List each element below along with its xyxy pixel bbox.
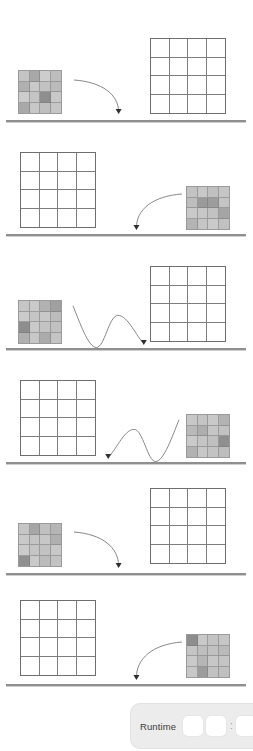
grid-cell[interactable] xyxy=(207,323,226,342)
grid-cell[interactable] xyxy=(208,208,219,219)
grid-cell[interactable] xyxy=(170,323,189,342)
grid-cell[interactable] xyxy=(198,447,209,458)
grid-cell[interactable] xyxy=(187,447,198,458)
grid-cell[interactable] xyxy=(208,436,219,447)
grid-cell[interactable] xyxy=(21,381,40,400)
grid-cell[interactable] xyxy=(30,301,41,312)
grid-cell[interactable] xyxy=(187,415,198,426)
grid-cell[interactable] xyxy=(77,153,96,172)
grid-cell[interactable] xyxy=(187,436,198,447)
grid-cell[interactable] xyxy=(170,508,189,527)
grid-cell[interactable] xyxy=(58,400,77,419)
grid-cell[interactable] xyxy=(219,208,230,219)
grid-cell[interactable] xyxy=(151,508,170,527)
grid-cell[interactable] xyxy=(40,153,59,172)
grid-cell[interactable] xyxy=(198,426,209,437)
grid-cell[interactable] xyxy=(198,198,209,209)
grid-cell[interactable] xyxy=(219,426,230,437)
grid-cell[interactable] xyxy=(219,635,230,646)
grid-cell[interactable] xyxy=(58,209,77,228)
grid-cell[interactable] xyxy=(77,638,96,657)
grid-cell[interactable] xyxy=(187,635,198,646)
grid-cell[interactable] xyxy=(19,301,30,312)
grid-cell[interactable] xyxy=(219,415,230,426)
grid-cell[interactable] xyxy=(207,267,226,286)
grid-cell[interactable] xyxy=(151,304,170,323)
grid-cell[interactable] xyxy=(19,535,30,546)
grid-cell[interactable] xyxy=(58,190,77,209)
grid-cell[interactable] xyxy=(170,58,189,77)
grid-cell[interactable] xyxy=(77,657,96,676)
target-grid-row-1[interactable] xyxy=(150,38,226,114)
grid-cell[interactable] xyxy=(40,556,51,567)
grid-cell[interactable] xyxy=(58,381,77,400)
runtime-digit-box-2[interactable] xyxy=(206,716,226,736)
grid-cell[interactable] xyxy=(208,646,219,657)
grid-cell[interactable] xyxy=(187,656,198,667)
grid-cell[interactable] xyxy=(170,76,189,95)
grid-cell[interactable] xyxy=(30,545,41,556)
grid-cell[interactable] xyxy=(21,638,40,657)
grid-cell[interactable] xyxy=(19,92,30,103)
grid-cell[interactable] xyxy=(40,638,59,657)
grid-cell[interactable] xyxy=(207,508,226,527)
grid-cell[interactable] xyxy=(21,418,40,437)
grid-cell[interactable] xyxy=(40,418,59,437)
grid-cell[interactable] xyxy=(21,657,40,676)
grid-cell[interactable] xyxy=(30,556,41,567)
grid-cell[interactable] xyxy=(198,656,209,667)
grid-cell[interactable] xyxy=(30,322,41,333)
grid-cell[interactable] xyxy=(198,208,209,219)
grid-cell[interactable] xyxy=(19,322,30,333)
target-grid-row-4[interactable] xyxy=(20,380,96,456)
grid-cell[interactable] xyxy=(30,82,41,93)
grid-cell[interactable] xyxy=(170,267,189,286)
grid-cell[interactable] xyxy=(77,620,96,639)
target-grid-row-2[interactable] xyxy=(20,152,96,228)
grid-cell[interactable] xyxy=(21,620,40,639)
grid-cell[interactable] xyxy=(40,400,59,419)
grid-cell[interactable] xyxy=(40,524,51,535)
grid-cell[interactable] xyxy=(58,638,77,657)
grid-cell[interactable] xyxy=(40,103,51,114)
grid-cell[interactable] xyxy=(40,333,51,344)
grid-cell[interactable] xyxy=(187,208,198,219)
grid-cell[interactable] xyxy=(170,39,189,58)
grid-cell[interactable] xyxy=(51,545,62,556)
grid-cell[interactable] xyxy=(40,71,51,82)
grid-cell[interactable] xyxy=(219,656,230,667)
grid-cell[interactable] xyxy=(40,312,51,323)
grid-cell[interactable] xyxy=(40,209,59,228)
grid-cell[interactable] xyxy=(219,187,230,198)
grid-cell[interactable] xyxy=(207,76,226,95)
grid-cell[interactable] xyxy=(151,323,170,342)
grid-cell[interactable] xyxy=(21,209,40,228)
grid-cell[interactable] xyxy=(51,556,62,567)
grid-cell[interactable] xyxy=(30,92,41,103)
grid-cell[interactable] xyxy=(58,437,77,456)
grid-cell[interactable] xyxy=(58,601,77,620)
grid-cell[interactable] xyxy=(170,95,189,114)
grid-cell[interactable] xyxy=(208,187,219,198)
grid-cell[interactable] xyxy=(19,71,30,82)
grid-cell[interactable] xyxy=(208,447,219,458)
grid-cell[interactable] xyxy=(198,635,209,646)
runtime-bar[interactable]: Runtime : xyxy=(131,704,253,748)
grid-cell[interactable] xyxy=(207,545,226,564)
pattern-grid-row-6[interactable] xyxy=(186,634,230,678)
pattern-grid-row-5[interactable] xyxy=(18,523,62,567)
grid-cell[interactable] xyxy=(188,304,207,323)
grid-cell[interactable] xyxy=(188,267,207,286)
grid-cell[interactable] xyxy=(51,312,62,323)
grid-cell[interactable] xyxy=(219,447,230,458)
runtime-digit-box-1[interactable] xyxy=(183,716,203,736)
grid-cell[interactable] xyxy=(19,312,30,323)
grid-cell[interactable] xyxy=(207,489,226,508)
grid-cell[interactable] xyxy=(151,95,170,114)
grid-cell[interactable] xyxy=(51,103,62,114)
grid-cell[interactable] xyxy=(188,58,207,77)
grid-cell[interactable] xyxy=(40,92,51,103)
grid-cell[interactable] xyxy=(58,172,77,191)
grid-cell[interactable] xyxy=(40,322,51,333)
grid-cell[interactable] xyxy=(19,524,30,535)
